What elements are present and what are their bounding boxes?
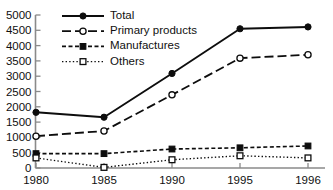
legend-item-primary-products[interactable]: Primary products: [62, 24, 197, 36]
data-point-marker: [237, 145, 243, 151]
legend-item-manufactures[interactable]: Manufactures: [62, 39, 180, 51]
y-tick-label: 500: [12, 147, 31, 159]
legend-label: Manufactures: [110, 39, 180, 51]
data-point-marker: [237, 153, 243, 159]
legend-label: Total: [110, 9, 134, 21]
x-tick-label: 1985: [91, 174, 117, 186]
series-total: [33, 24, 311, 120]
data-point-marker: [101, 114, 107, 120]
data-point-marker: [80, 13, 86, 19]
data-point-marker: [33, 155, 39, 161]
data-point-marker: [80, 28, 86, 34]
y-tick-label: 2000: [6, 101, 32, 113]
data-point-marker: [33, 133, 39, 139]
data-point-marker: [80, 59, 86, 65]
chart-legend: TotalPrimary productsManufacturesOthers: [62, 9, 197, 67]
data-point-marker: [101, 164, 107, 170]
legend-item-total[interactable]: Total: [62, 9, 134, 21]
x-tick-label: 1990: [159, 174, 185, 186]
data-point-marker: [305, 24, 311, 30]
y-tick-label: 5000: [6, 9, 32, 21]
series-primary-products: [33, 52, 311, 140]
y-tick-label: 1500: [6, 116, 32, 128]
legend-label: Others: [110, 55, 145, 67]
data-point-marker: [80, 44, 86, 50]
data-point-marker: [33, 109, 39, 115]
data-point-marker: [101, 128, 107, 134]
data-point-marker: [169, 146, 175, 152]
chart-canvas: 0500100015002000250030003500400045005000…: [0, 0, 333, 190]
y-tick-label: 2500: [6, 86, 32, 98]
y-tick-label: 1000: [6, 131, 32, 143]
x-tick-label: 1996: [295, 174, 321, 186]
y-tick-label: 3000: [6, 70, 32, 82]
data-point-marker: [305, 52, 311, 58]
data-point-marker: [101, 151, 107, 157]
data-point-marker: [305, 143, 311, 149]
x-tick-label: 1980: [23, 174, 49, 186]
data-point-marker: [169, 70, 175, 76]
axis-frame: [36, 15, 326, 168]
x-tick-label: 1995: [227, 174, 253, 186]
legend-item-others[interactable]: Others: [62, 55, 145, 67]
x-axis-tick-group: 19801985199019951996: [23, 163, 321, 186]
data-point-marker: [237, 55, 243, 61]
data-point-marker: [305, 155, 311, 161]
y-tick-label: 3500: [6, 55, 32, 67]
legend-label: Primary products: [110, 24, 197, 36]
line-chart: 0500100015002000250030003500400045005000…: [0, 0, 333, 190]
y-tick-label: 4000: [6, 40, 32, 52]
y-tick-label: 0: [25, 162, 31, 174]
data-point-marker: [169, 92, 175, 98]
data-point-marker: [237, 26, 243, 32]
series-manufactures: [33, 143, 311, 156]
data-point-marker: [169, 157, 175, 163]
y-tick-label: 4500: [6, 24, 32, 36]
